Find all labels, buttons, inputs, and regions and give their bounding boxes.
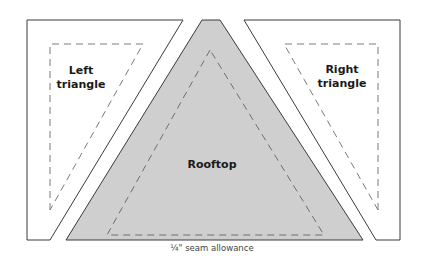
quilt-block-diagram: Left triangle Rooftop ¼" seam allowance … bbox=[0, 0, 421, 277]
rooftop-label: Rooftop bbox=[187, 158, 236, 171]
seam-allowance-label: ¼" seam allowance bbox=[170, 243, 253, 253]
right-triangle-label-line1: Right bbox=[325, 63, 358, 76]
left-triangle-label-line2: triangle bbox=[57, 78, 106, 91]
left-triangle-label-line1: Left bbox=[69, 64, 94, 77]
right-triangle-label-line2: triangle bbox=[318, 77, 367, 90]
